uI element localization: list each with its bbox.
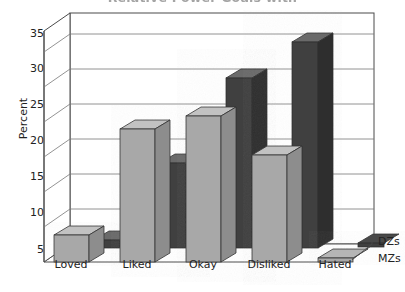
bar-loved-mzs	[54, 226, 104, 262]
bar-disliked-mzs	[252, 146, 302, 262]
bar-liked-mzs	[120, 120, 170, 262]
x-tick-disliked: Disliked	[236, 258, 302, 271]
bar-okay-mzs	[186, 107, 236, 262]
x-tick-loved: Loved	[38, 258, 104, 271]
plot-area	[0, 0, 405, 292]
chart-container: Relative Power Goals with Percent 35 30 …	[0, 0, 405, 292]
x-tick-liked: Liked	[104, 258, 170, 271]
x-tick-hated: Hated	[302, 258, 368, 271]
x-tick-okay: Okay	[170, 258, 236, 271]
legend-label-dzs: DZs	[378, 235, 400, 248]
legend-label-mzs: MZs	[378, 252, 401, 265]
